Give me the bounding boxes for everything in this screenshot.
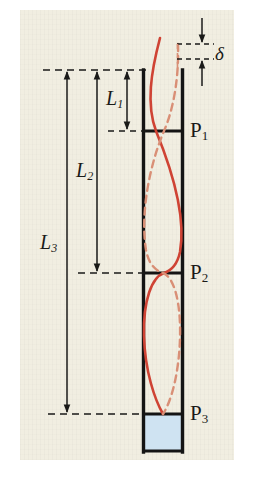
label-point-2-sub: 2 <box>202 270 209 285</box>
label-point-1-text: P <box>190 118 202 142</box>
label-point-2-text: P <box>190 260 202 284</box>
label-length-3-sub: 3 <box>51 241 57 255</box>
base-block <box>145 415 181 452</box>
figure-container: δ L1 L2 L3 P1 P2 P3 <box>0 0 254 486</box>
label-length-1: L1 <box>106 88 123 110</box>
label-length-2-sub: 2 <box>87 169 93 183</box>
label-length-2-text: L <box>76 159 87 181</box>
label-length-3-text: L <box>40 231 51 253</box>
diagram-drawing <box>0 0 254 486</box>
label-delta: δ <box>215 44 224 63</box>
label-point-1: P1 <box>190 120 208 142</box>
label-point-3-sub: 3 <box>202 411 209 426</box>
label-point-3: P3 <box>190 403 208 425</box>
label-length-1-text: L <box>106 87 117 109</box>
mode-shape-solid <box>144 38 181 414</box>
label-point-2: P2 <box>190 262 208 284</box>
label-point-1-sub: 1 <box>202 128 209 143</box>
label-length-2: L2 <box>76 160 93 182</box>
label-length-3: L3 <box>40 232 57 254</box>
label-point-3-text: P <box>190 401 202 425</box>
label-length-1-sub: 1 <box>117 97 123 111</box>
